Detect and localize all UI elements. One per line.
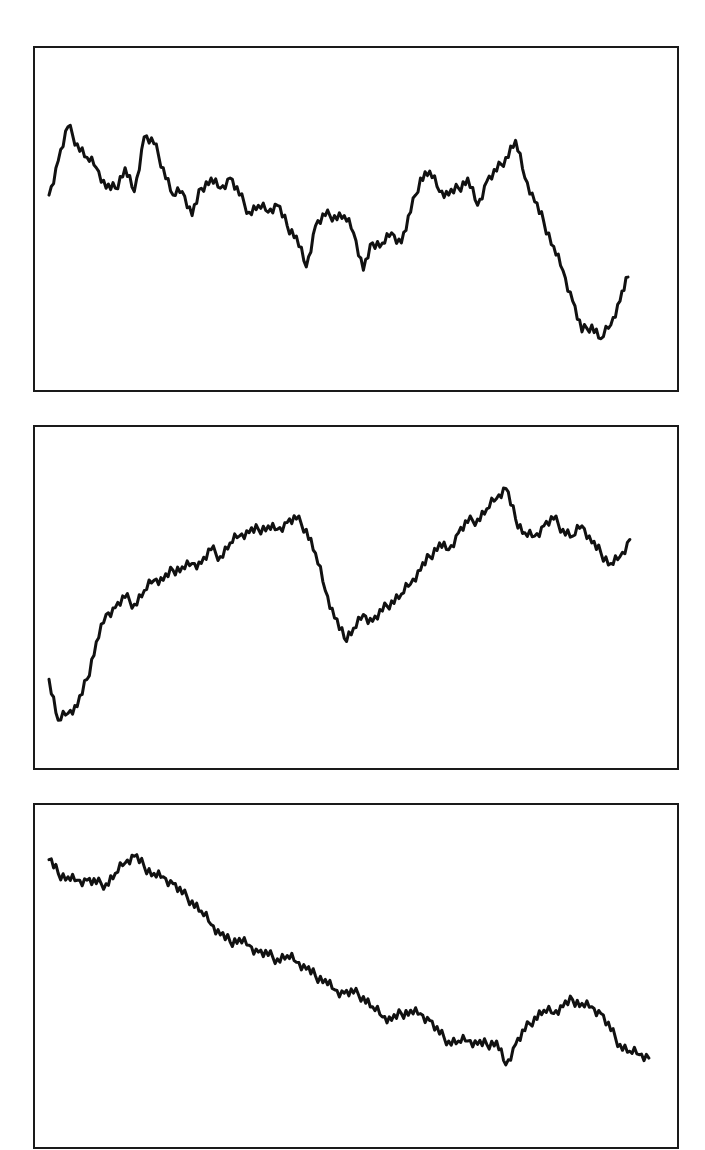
series-line-3 (49, 855, 649, 1065)
chart-panel-2 (33, 425, 679, 770)
chart-panel-3 (33, 803, 679, 1149)
chart-3-plot (35, 805, 677, 1147)
chart-2-plot (35, 427, 677, 768)
chart-1-plot (35, 48, 677, 390)
series-line-2 (49, 488, 630, 720)
series-line-1 (49, 125, 628, 338)
chart-panel-1 (33, 46, 679, 392)
